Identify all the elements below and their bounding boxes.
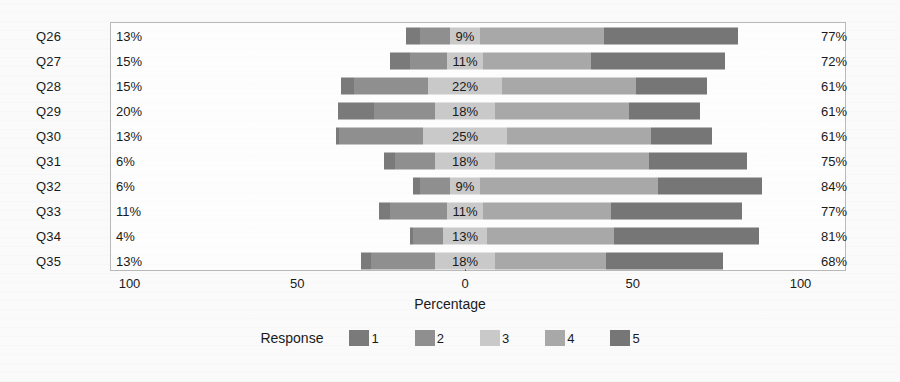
bar-segment-response-5 [614, 227, 758, 244]
row-middle-percentage: 25% [452, 129, 478, 144]
row-right-percentage: 61% [813, 129, 847, 144]
row-middle-percentage: 11% [452, 203, 477, 218]
stacked-bar [338, 103, 700, 120]
stacked-bar [336, 128, 712, 145]
row-category-label: Q33 [36, 203, 61, 218]
bar-segment-response-2 [420, 28, 450, 45]
row-left-percentage: 4% [116, 228, 135, 243]
bar-segment-response-5 [591, 53, 725, 70]
stacked-bar [390, 53, 725, 70]
row-left-percentage: 20% [116, 104, 142, 119]
row-left-percentage: 13% [116, 129, 142, 144]
row-category-label: Q29 [36, 104, 61, 119]
legend-key-label: 5 [632, 331, 639, 346]
x-axis-title: Percentage [0, 296, 900, 312]
legend-items: 12345 [349, 330, 639, 346]
row-left-percentage: 11% [116, 203, 141, 218]
legend-item-response-5[interactable]: 5 [610, 330, 639, 346]
row-middle-percentage: 11% [452, 54, 477, 69]
x-axis-tick-label: 100 [119, 276, 141, 291]
bar-segment-response-4 [502, 78, 636, 95]
bar-segment-response-2 [339, 128, 423, 145]
row-middle-percentage: 22% [452, 79, 478, 94]
bar-segment-response-5 [604, 28, 738, 45]
chart-row: Q3311%77%11% [0, 198, 900, 223]
row-left-percentage: 13% [116, 29, 142, 44]
stacked-bar [379, 202, 741, 219]
row-left-percentage: 6% [116, 153, 135, 168]
bar-segment-response-1 [413, 177, 420, 194]
chart-row: Q2815%61%22% [0, 74, 900, 99]
bar-segment-response-1 [406, 28, 419, 45]
row-middle-percentage: 9% [456, 178, 475, 193]
bar-segment-response-5 [629, 103, 699, 120]
bar-segment-response-2 [371, 252, 435, 269]
bar-segment-response-2 [410, 53, 447, 70]
bar-segment-response-2 [395, 152, 435, 169]
bar-segment-response-4 [495, 103, 629, 120]
row-right-percentage: 75% [813, 153, 847, 168]
bar-segment-response-2 [374, 103, 434, 120]
row-middle-percentage: 9% [456, 29, 475, 44]
chart-row: Q344%81%13% [0, 223, 900, 248]
row-right-percentage: 84% [813, 178, 847, 193]
legend-item-response-4[interactable]: 4 [545, 330, 574, 346]
row-middle-percentage: 18% [452, 153, 478, 168]
legend-item-response-1[interactable]: 1 [349, 330, 378, 346]
chart-row: Q316%75%18% [0, 149, 900, 174]
bar-segment-response-1 [361, 252, 371, 269]
row-right-percentage: 68% [813, 253, 847, 268]
chart-row: Q2613%77%9% [0, 24, 900, 49]
row-category-label: Q27 [36, 54, 61, 69]
legend-key-label: 4 [567, 331, 574, 346]
row-right-percentage: 81% [813, 228, 847, 243]
legend-swatch-3 [480, 330, 500, 346]
row-category-label: Q34 [36, 228, 61, 243]
bar-segment-response-4 [495, 152, 649, 169]
bar-segment-response-5 [611, 202, 742, 219]
row-right-percentage: 61% [813, 104, 847, 119]
bar-segment-response-2 [354, 78, 428, 95]
row-right-percentage: 77% [813, 29, 847, 44]
x-axis-tick-label: 100 [790, 276, 812, 291]
chart-row: Q3513%68%18% [0, 248, 900, 273]
row-left-percentage: 13% [116, 253, 142, 268]
bar-segment-response-2 [390, 202, 447, 219]
row-left-percentage: 6% [116, 178, 135, 193]
legend-swatch-5 [610, 330, 630, 346]
bar-segment-response-4 [495, 252, 606, 269]
legend-swatch-1 [349, 330, 369, 346]
bar-segment-response-1 [384, 152, 394, 169]
legend-key-label: 2 [437, 331, 444, 346]
bar-segment-response-4 [480, 28, 604, 45]
legend-item-response-2[interactable]: 2 [415, 330, 444, 346]
bar-segment-response-2 [413, 227, 443, 244]
row-right-percentage: 72% [813, 54, 847, 69]
bar-segment-response-4 [507, 128, 651, 145]
bar-segment-response-4 [480, 177, 658, 194]
row-right-percentage: 77% [813, 203, 847, 218]
row-left-percentage: 15% [116, 54, 142, 69]
likert-diverging-bar-chart: Q2613%77%9%Q2715%72%11%Q2815%61%22%Q2920… [0, 0, 900, 382]
legend-key-label: 3 [502, 331, 509, 346]
legend-key-label: 1 [371, 331, 378, 346]
bar-segment-response-2 [420, 177, 450, 194]
stacked-bar [341, 78, 707, 95]
row-category-label: Q28 [36, 79, 61, 94]
row-right-percentage: 61% [813, 79, 847, 94]
bar-segment-response-1 [341, 78, 354, 95]
bar-segment-response-1 [379, 202, 389, 219]
row-category-label: Q31 [36, 153, 61, 168]
x-axis-ticks: 10050050100 [0, 276, 900, 294]
bar-segment-response-5 [649, 152, 746, 169]
row-middle-percentage: 18% [452, 253, 478, 268]
bar-segment-response-5 [636, 78, 706, 95]
stacked-bar [384, 152, 746, 169]
legend-item-response-3[interactable]: 3 [480, 330, 509, 346]
row-category-label: Q30 [36, 129, 61, 144]
row-category-label: Q32 [36, 178, 61, 193]
row-category-label: Q35 [36, 253, 61, 268]
chart-row: Q2920%61%18% [0, 99, 900, 124]
x-axis-tick-label: 0 [461, 276, 468, 291]
chart-row: Q3013%61%25% [0, 124, 900, 149]
